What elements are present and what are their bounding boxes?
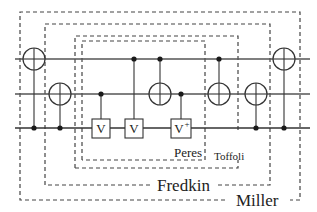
control-dot-icon: [157, 56, 162, 61]
cnot-gate-2: [49, 83, 71, 131]
control-dot-icon: [31, 125, 36, 130]
control-dot-icon: [57, 125, 62, 130]
toffoli-label: Toffoli: [214, 150, 244, 162]
dagger-superscript: +: [184, 119, 189, 129]
cnot-gate-1: [23, 48, 45, 131]
control-dot-icon: [253, 125, 258, 130]
miller-label: Miller: [236, 191, 279, 210]
peres-label: Peres: [174, 145, 202, 160]
control-dot-icon: [178, 91, 183, 96]
control-dot-icon: [281, 125, 286, 130]
controlled-v-gate-2: V: [125, 56, 143, 138]
circuit-diagram: V V V +: [0, 0, 317, 212]
cnot-gate-4: [208, 56, 230, 105]
v-gate-label: V: [96, 121, 106, 136]
cnot-gate-3: [149, 56, 171, 105]
cnot-gate-6: [273, 48, 295, 131]
miller-box: [20, 12, 300, 200]
control-dot-icon: [216, 56, 221, 61]
controlled-v-gate-1: V: [92, 91, 110, 138]
v-gate-label: V: [129, 121, 139, 136]
controlled-v-dagger-gate: V +: [171, 91, 191, 138]
v-dagger-gate-label: V: [174, 121, 184, 136]
control-dot-icon: [131, 56, 136, 61]
fredkin-label: Fredkin: [157, 176, 210, 195]
control-dot-icon: [98, 91, 103, 96]
cnot-gate-5: [245, 83, 267, 131]
